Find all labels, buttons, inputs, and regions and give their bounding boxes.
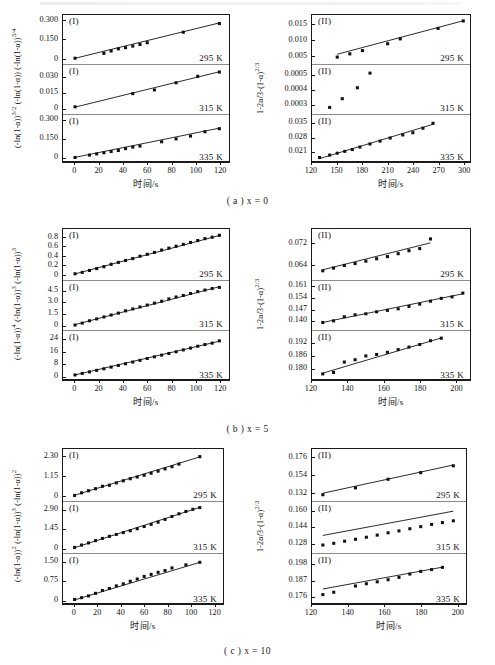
subplot-315-K: (II)315 K <box>312 280 470 331</box>
y-tick-mark <box>63 456 66 457</box>
y-tick-label: 0.192 <box>289 337 307 346</box>
x-axis-title: 时间/s <box>62 395 230 408</box>
y-tick-mark <box>63 476 66 477</box>
x-tick-mark <box>384 604 385 607</box>
x-axis-title: 时间/s <box>311 619 467 632</box>
y-tick-label: 0 <box>54 490 58 499</box>
x-tick-label: 60 <box>143 384 151 393</box>
x-tick-mark <box>362 162 363 165</box>
x-tick-label: 40 <box>117 608 125 617</box>
y-tick-label: 0.180 <box>289 363 307 372</box>
x-tick-label: 40 <box>119 166 127 175</box>
y-tick-label: 0.021 <box>289 146 307 155</box>
y-tick-mark <box>63 377 66 378</box>
y-tick-label: 0.147 <box>289 303 307 312</box>
y-tick-label: 0.015 <box>40 86 58 95</box>
y-tick-mark <box>63 275 66 276</box>
y-tick-label: 0.2 <box>48 260 58 269</box>
caption-b: ( b ) x = 5 <box>0 424 495 434</box>
x-tick-mark <box>99 380 100 383</box>
x-tick-label: 60 <box>140 608 148 617</box>
x-tick-label: 180 <box>415 608 427 617</box>
data-series <box>63 15 229 64</box>
y-tick-mark <box>312 356 315 357</box>
y-tick-mark <box>63 237 66 238</box>
y-tick-labels: 0.1320.1540.1760.1280.1440.1600.1760.187… <box>249 448 307 604</box>
subplot-335-K: (I)335 K <box>63 114 229 163</box>
data-series <box>63 115 229 163</box>
figure-group-c: (-ln(1-α))2 (-ln(1-α))3 (-ln(1-α))2(I)29… <box>0 438 495 665</box>
y-tick-mark <box>312 90 315 91</box>
x-tick-label: 120 <box>305 166 317 175</box>
y-tick-label: 1.50 <box>44 555 58 564</box>
y-tick-label: 0.300 <box>40 113 58 122</box>
x-tick-label: 160 <box>378 608 390 617</box>
y-tick-label: 0.75 <box>44 575 58 584</box>
y-tick-label: 0.160 <box>289 504 307 513</box>
data-series <box>63 229 229 280</box>
subplot-315-K: (I)315 K <box>63 280 229 331</box>
subplot-295-K: (II)295 K <box>312 229 470 280</box>
y-tick-label: 0.035 <box>289 116 307 125</box>
y-tick-label: 0.6 <box>48 241 58 250</box>
x-tick-mark <box>384 380 385 383</box>
data-series <box>63 65 229 113</box>
subplot-335-K: (II)335 K <box>312 330 470 381</box>
y-tick-labels: 0.0050.0100.0150.00030.00040.00050.0210.… <box>249 14 307 162</box>
y-tick-mark <box>63 120 66 121</box>
y-tick-mark <box>63 265 66 266</box>
x-tick-mark <box>464 162 465 165</box>
plot-frame: (I)295 K(I)315 K(I)335 K <box>62 14 230 162</box>
x-axis-line <box>62 380 230 381</box>
x-tick-mark <box>74 162 75 165</box>
subplot-335-K: (II)335 K <box>312 553 466 605</box>
y-tick-mark <box>63 302 66 303</box>
x-tick-mark <box>311 380 312 383</box>
y-tick-mark <box>63 291 66 292</box>
x-tick-label: 200 <box>450 384 462 393</box>
y-tick-label: 0 <box>54 542 58 551</box>
x-tick-mark <box>220 380 221 383</box>
x-tick-label: 150 <box>330 166 342 175</box>
y-tick-label: 0.8 <box>48 231 58 240</box>
y-tick-label: 8 <box>54 358 58 367</box>
y-tick-labels: 01.152.3001.452.9000.751.50 <box>4 448 58 604</box>
x-tick-mark <box>121 604 122 607</box>
y-tick-labels: 00.20.40.60.801.53.04.5081624 <box>4 228 58 380</box>
data-series <box>312 15 470 64</box>
plot-frame: (II)295 K(II)315 K(II)335 K <box>311 14 471 162</box>
y-tick-label: 0 <box>54 269 58 278</box>
subplot-315-K: (II)315 K <box>312 501 466 553</box>
subplot-335-K: (I)335 K <box>63 553 223 605</box>
x-tick-mark <box>421 604 422 607</box>
y-tick-mark <box>312 24 315 25</box>
plot-frame: (II)295 K(II)315 K(II)335 K <box>311 448 467 604</box>
y-tick-mark <box>63 510 66 511</box>
x-tick-label: 100 <box>190 384 202 393</box>
x-tick-label: 240 <box>407 166 419 175</box>
x-tick-label: 80 <box>167 166 175 175</box>
y-tick-mark <box>63 39 66 40</box>
y-tick-label: 0 <box>54 319 58 328</box>
data-series <box>312 331 470 381</box>
x-tick-label: 120 <box>214 384 226 393</box>
y-tick-label: 0 <box>54 594 58 603</box>
y-tick-mark <box>312 138 315 139</box>
y-tick-mark <box>312 298 315 299</box>
x-tick-label: 120 <box>214 166 226 175</box>
y-tick-label: 0.300 <box>40 14 58 23</box>
y-tick-label: 0.186 <box>289 350 307 359</box>
x-tick-mark <box>123 162 124 165</box>
y-tick-mark <box>312 243 315 244</box>
data-series <box>312 281 470 331</box>
subplot-315-K: (I)315 K <box>63 64 229 113</box>
data-series <box>312 502 466 553</box>
y-tick-mark <box>312 369 315 370</box>
y-tick-mark <box>312 544 315 545</box>
x-tick-mark <box>337 162 338 165</box>
x-tick-label: 160 <box>378 384 390 393</box>
y-tick-label: 0.030 <box>40 71 58 80</box>
x-tick-label: 180 <box>414 384 426 393</box>
data-series <box>63 502 223 553</box>
data-series <box>312 554 466 605</box>
